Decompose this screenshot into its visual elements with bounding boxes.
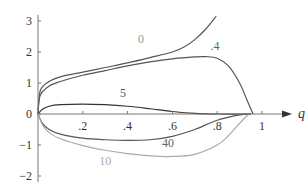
curves-group (38, 15, 253, 157)
labels-group: q3210−1−2.2.4.6.810.454010 (19, 14, 305, 183)
curve-label: 5 (120, 86, 126, 100)
chart: q3210−1−2.2.4.6.810.454010 (0, 0, 308, 185)
x-tick-label: .2 (78, 119, 87, 133)
y-tick-label: −2 (19, 169, 32, 183)
x-tick-label: .8 (213, 119, 222, 133)
y-tick-label: −1 (19, 138, 32, 152)
x-tick-label: .6 (168, 119, 177, 133)
curve-label: 0 (138, 32, 144, 46)
curve-label: 40 (162, 136, 174, 150)
y-tick-label: 1 (26, 76, 32, 90)
curve-label: .4 (210, 39, 219, 53)
y-tick-label: 2 (26, 45, 32, 59)
curve-label: 10 (99, 154, 111, 168)
x-axis-title: q (298, 106, 305, 121)
curve-5 (38, 104, 251, 114)
curve-0 (38, 15, 217, 114)
y-tick-label: 3 (26, 14, 32, 28)
x-axis-arrow-icon (282, 111, 292, 118)
x-tick-label: 1 (259, 119, 265, 133)
curve-p4 (38, 57, 253, 114)
y-tick-label: 0 (26, 107, 32, 121)
x-tick-label: .4 (123, 119, 132, 133)
